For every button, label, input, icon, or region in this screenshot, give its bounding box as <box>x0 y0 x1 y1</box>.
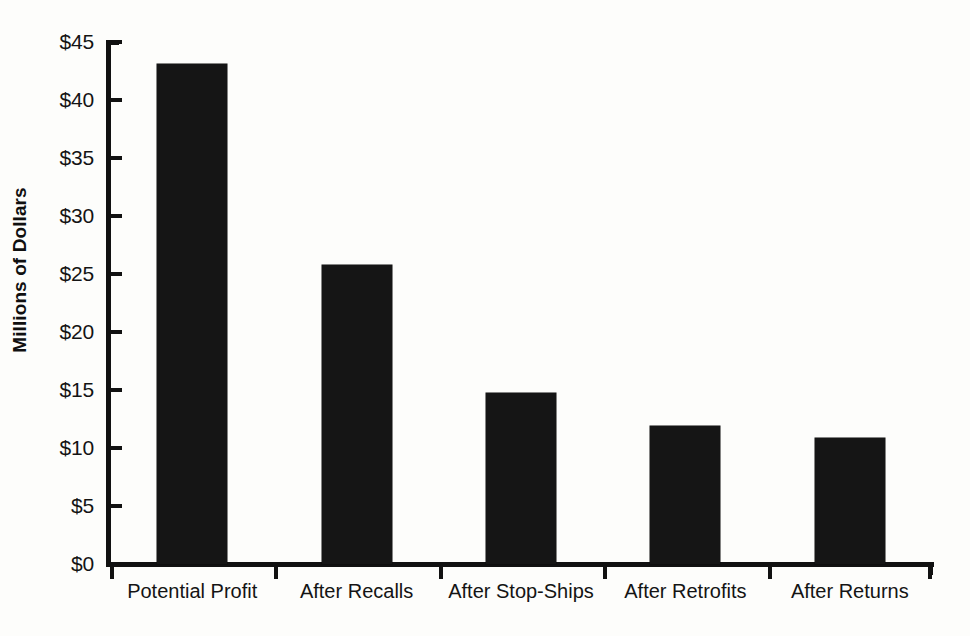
x-axis-tick <box>274 567 278 579</box>
bar <box>322 265 392 564</box>
y-axis-tick-label: $25 <box>0 262 94 286</box>
y-axis-tick-label: $5 <box>0 494 94 518</box>
y-axis-tick-label: $20 <box>0 320 94 344</box>
y-axis-tick-label: $35 <box>0 146 94 170</box>
bar <box>157 64 227 564</box>
bar <box>650 426 720 564</box>
x-axis-category-label: Potential Profit <box>127 580 257 603</box>
x-axis-tick <box>603 567 607 579</box>
x-axis-category-label: After Stop-Ships <box>448 580 594 603</box>
plot-area <box>110 42 932 564</box>
y-axis-tick-label: $30 <box>0 204 94 228</box>
bar <box>486 393 556 564</box>
x-axis-tick <box>439 567 443 579</box>
x-axis-tick <box>768 567 772 579</box>
y-axis-tick-label: $10 <box>0 436 94 460</box>
y-axis-tick-label: $45 <box>0 30 94 54</box>
x-axis-category-label: After Returns <box>791 580 909 603</box>
y-axis-tick-label: $0 <box>0 552 94 576</box>
x-axis-tick <box>928 567 932 579</box>
y-axis-tick-label: $40 <box>0 88 94 112</box>
x-axis-category-label: After Recalls <box>300 580 413 603</box>
x-axis-tick <box>110 567 114 579</box>
y-axis-tick-label: $15 <box>0 378 94 402</box>
bar-chart: Millions of Dollars $0$5$10$15$20$25$30$… <box>0 0 970 636</box>
bar <box>815 438 885 564</box>
x-axis-category-label: After Retrofits <box>624 580 746 603</box>
